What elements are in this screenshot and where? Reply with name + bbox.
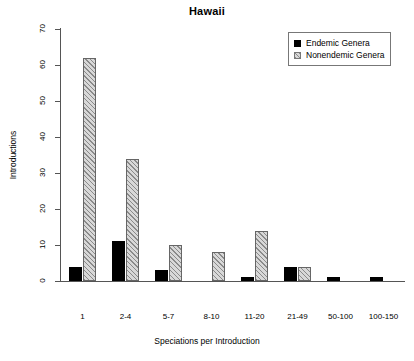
y-tick-label: 0 (38, 271, 47, 291)
y-tick-label: 60 (38, 55, 47, 75)
bar-endemic-50-100 (327, 277, 340, 281)
bar-endemic-100-150 (370, 277, 383, 281)
plot-area (61, 29, 405, 281)
chart-container: Hawaii 010203040506070 12-45-78-1011-202… (0, 0, 414, 361)
chart-title: Hawaii (0, 5, 414, 17)
legend-label-endemic: Endemic Genera (306, 38, 370, 48)
y-tick-label: 10 (38, 235, 47, 255)
legend-item-endemic: Endemic Genera (294, 37, 384, 49)
bar-endemic-11-20 (241, 277, 254, 281)
bar-nonendemic-21-49 (298, 267, 311, 281)
legend-label-nonendemic: Nonendemic Genera (306, 50, 384, 60)
y-axis-title: Introductions (8, 110, 18, 200)
legend-item-nonendemic: Nonendemic Genera (294, 49, 384, 61)
bar-nonendemic-2-4 (126, 159, 139, 281)
bar-nonendemic-1 (83, 58, 96, 281)
x-axis-line (61, 281, 405, 282)
bar-nonendemic-11-20 (255, 231, 268, 281)
y-tick-label: 20 (38, 199, 47, 219)
y-tick-label: 50 (38, 91, 47, 111)
y-tick-label: 70 (38, 19, 47, 39)
x-tick-label: 100-150 (359, 312, 409, 321)
legend-swatch-nonendemic-icon (294, 52, 301, 59)
bar-endemic-5-7 (155, 270, 168, 281)
x-axis-title: Speciations per Introduction (0, 336, 414, 346)
y-tick-label: 40 (38, 127, 47, 147)
bar-endemic-21-49 (284, 267, 297, 281)
y-tick-mark (55, 281, 61, 282)
bar-nonendemic-5-7 (169, 245, 182, 281)
chart-legend: Endemic Genera Nonendemic Genera (288, 32, 391, 66)
bar-endemic-1 (69, 267, 82, 281)
bar-nonendemic-8-10 (212, 252, 225, 281)
bar-endemic-2-4 (112, 241, 125, 281)
legend-swatch-endemic-icon (294, 40, 301, 47)
y-tick-label: 30 (38, 163, 47, 183)
